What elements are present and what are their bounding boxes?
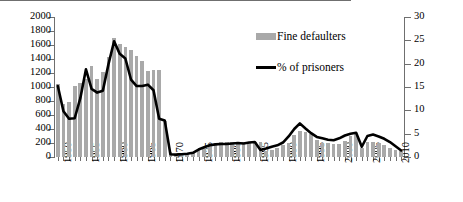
y-tick-label-right: 5 bbox=[414, 128, 438, 138]
x-tick bbox=[165, 157, 166, 161]
x-tick bbox=[362, 157, 363, 161]
y-tick-label-left: 1600 bbox=[9, 39, 51, 49]
x-tick bbox=[244, 157, 245, 161]
legend-item-fine-defaulters: Fine defaulters bbox=[256, 26, 346, 46]
x-tick bbox=[300, 157, 301, 161]
x-tick bbox=[384, 157, 385, 161]
y-tick-label-right: 0 bbox=[414, 151, 438, 161]
x-tick bbox=[86, 157, 87, 161]
legend-label-percent-of-prisoners: % of prisoners bbox=[277, 61, 344, 73]
y-tick-label-left: 1000 bbox=[9, 81, 51, 91]
x-tick bbox=[80, 157, 81, 161]
chart-legend: Fine defaulters % of prisoners bbox=[256, 26, 346, 77]
y-tick-label-right: 15 bbox=[414, 81, 438, 91]
x-tick bbox=[339, 157, 340, 161]
y-tick-label-left: 600 bbox=[9, 109, 51, 119]
x-tick bbox=[283, 157, 284, 161]
y-tick-label-right: 25 bbox=[414, 34, 438, 44]
legend-label-fine-defaulters: Fine defaulters bbox=[277, 30, 346, 42]
y-tick-label-left: 1800 bbox=[9, 25, 51, 35]
y-tick-label-right: 10 bbox=[414, 104, 438, 114]
y-tick-label-left: 400 bbox=[9, 123, 51, 133]
line-swatch-icon bbox=[256, 66, 276, 69]
y-tick-right bbox=[404, 64, 411, 65]
x-axis-line bbox=[0, 0, 351, 1]
x-tick bbox=[356, 157, 357, 161]
x-tick bbox=[215, 157, 216, 161]
y-tick-label-left: 800 bbox=[9, 95, 51, 105]
y-tick-right bbox=[404, 87, 411, 88]
x-tick bbox=[396, 157, 397, 161]
x-tick bbox=[75, 157, 76, 161]
chart-container: 0200400600800100012001400160018002000 05… bbox=[0, 0, 463, 202]
x-tick bbox=[131, 157, 132, 161]
legend-item-percent-of-prisoners: % of prisoners bbox=[256, 57, 346, 77]
x-tick bbox=[103, 157, 104, 161]
x-tick bbox=[199, 157, 200, 161]
x-tick bbox=[114, 157, 115, 161]
x-tick bbox=[187, 157, 188, 161]
x-tick bbox=[390, 157, 391, 161]
y-tick-label-left: 0 bbox=[9, 151, 51, 161]
x-tick bbox=[328, 157, 329, 161]
x-tick bbox=[272, 157, 273, 161]
x-tick bbox=[193, 157, 194, 161]
y-tick-right bbox=[404, 110, 411, 111]
y-tick-label-left: 200 bbox=[9, 137, 51, 147]
x-tick bbox=[277, 157, 278, 161]
x-tick bbox=[255, 157, 256, 161]
x-tick bbox=[334, 157, 335, 161]
line-path bbox=[58, 41, 401, 154]
x-tick bbox=[108, 157, 109, 161]
x-tick bbox=[221, 157, 222, 161]
y-tick-label-left: 1200 bbox=[9, 67, 51, 77]
x-tick bbox=[58, 157, 59, 161]
x-tick bbox=[305, 157, 306, 161]
x-tick bbox=[159, 157, 160, 161]
line-series-percent-of-prisoners bbox=[55, 17, 404, 157]
x-tick bbox=[367, 157, 368, 161]
y-tick-right bbox=[404, 134, 411, 135]
x-tick bbox=[142, 157, 143, 161]
y-tick-label-left: 1400 bbox=[9, 53, 51, 63]
bar-swatch-icon bbox=[256, 33, 276, 40]
x-tick bbox=[137, 157, 138, 161]
y-tick-right bbox=[404, 40, 411, 41]
y-tick-label-left: 2000 bbox=[9, 11, 51, 21]
plot-area bbox=[55, 17, 404, 157]
y-tick-label-right: 30 bbox=[414, 11, 438, 21]
x-tick bbox=[249, 157, 250, 161]
y-tick-label-right: 20 bbox=[414, 58, 438, 68]
x-tick bbox=[227, 157, 228, 161]
y-tick-right bbox=[404, 17, 411, 18]
x-tick bbox=[170, 157, 171, 161]
x-tick bbox=[311, 157, 312, 161]
